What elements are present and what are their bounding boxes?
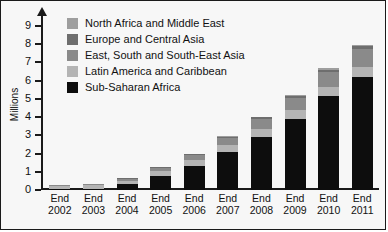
y-axis-tick-label: 9 (9, 20, 31, 30)
bar-segment[interactable] (251, 119, 272, 129)
bar-segment[interactable] (352, 67, 373, 77)
x-axis-label-line: 2006 (177, 205, 211, 217)
y-axis-tick-label: 7 (9, 56, 31, 66)
legend-swatch-icon (67, 66, 78, 77)
legend-swatch-icon (67, 34, 78, 45)
y-axis-tick (35, 153, 41, 155)
legend-item[interactable]: East, South and South-East Asia (67, 47, 245, 63)
stacked-bar[interactable] (49, 185, 70, 190)
bar-segment[interactable] (117, 184, 138, 190)
stacked-bar[interactable] (217, 136, 238, 190)
bar-segment[interactable] (285, 119, 306, 190)
x-axis-label-line: End (144, 193, 178, 205)
x-axis-tick-label: End2002 (43, 193, 77, 216)
x-axis-tick-label: End2006 (177, 193, 211, 216)
x-axis-label-line: 2005 (144, 205, 178, 217)
bar-segment[interactable] (150, 176, 171, 190)
bar-segment[interactable] (184, 166, 205, 190)
stacked-bar[interactable] (318, 68, 339, 190)
legend-label: Latin America and Caribbean (85, 66, 227, 77)
bar-segment[interactable] (285, 98, 306, 111)
x-axis-label-line: 2010 (312, 205, 346, 217)
bar-group[interactable] (251, 15, 272, 190)
legend-label: Europe and Central Asia (85, 34, 204, 45)
chart-legend: North Africa and Middle EastEurope and C… (67, 15, 245, 95)
x-axis-label-line: End (278, 193, 312, 205)
legend-swatch-icon (67, 18, 78, 29)
x-axis-label-line: End (312, 193, 346, 205)
x-axis-tick-label: End2010 (312, 193, 346, 216)
y-axis-tick-label: 8 (9, 38, 31, 48)
x-axis-label-line: End (345, 193, 379, 205)
legend-swatch-icon (67, 82, 78, 93)
legend-item[interactable]: North Africa and Middle East (67, 15, 245, 31)
legend-label: North Africa and Middle East (85, 18, 224, 29)
y-axis-tick (35, 61, 41, 63)
chart-figure: Millions 0123456789 End2002End2003End200… (0, 0, 386, 230)
bar-segment[interactable] (217, 152, 238, 190)
stacked-bar[interactable] (285, 95, 306, 190)
bar-segment[interactable] (352, 77, 373, 190)
y-axis-tick (35, 189, 41, 191)
y-axis-tick (35, 171, 41, 173)
stacked-bar[interactable] (184, 154, 205, 190)
x-axis-label-line: 2009 (278, 205, 312, 217)
bar-segment[interactable] (352, 49, 373, 67)
bar-segment[interactable] (49, 189, 70, 190)
x-axis-tick-label: End2007 (211, 193, 245, 216)
x-axis-label-line: 2003 (77, 205, 111, 217)
legend-item[interactable]: Sub-Saharan Africa (67, 79, 245, 95)
stacked-bar[interactable] (117, 178, 138, 190)
legend-item[interactable]: Europe and Central Asia (67, 31, 245, 47)
stacked-bar[interactable] (83, 184, 104, 190)
x-axis-label-line: End (245, 193, 279, 205)
bar-segment[interactable] (251, 137, 272, 190)
x-axis-tick-label: End2003 (77, 193, 111, 216)
bar-group[interactable] (285, 15, 306, 190)
x-axis-label-line: End (211, 193, 245, 205)
bar-segment[interactable] (83, 189, 104, 190)
x-axis-label-line: 2007 (211, 205, 245, 217)
bar-segment[interactable] (217, 138, 238, 145)
legend-label: East, South and South-East Asia (85, 50, 245, 61)
x-axis-tick-label: End2011 (345, 193, 379, 216)
legend-label: Sub-Saharan Africa (85, 82, 180, 93)
y-axis-tick (35, 98, 41, 100)
y-axis-tick-label: 2 (9, 148, 31, 158)
bar-segment[interactable] (251, 129, 272, 137)
x-axis-label-line: End (177, 193, 211, 205)
y-axis-tick-label: 3 (9, 129, 31, 139)
y-axis-tick-label: 6 (9, 75, 31, 85)
bar-segment[interactable] (318, 87, 339, 96)
y-axis-tick (35, 134, 41, 136)
y-axis-tick (35, 80, 41, 82)
x-axis-label-line: End (43, 193, 77, 205)
bar-segment[interactable] (217, 145, 238, 152)
x-axis-label-line: 2008 (245, 205, 279, 217)
y-axis-tick (35, 116, 41, 118)
x-axis-label-line: 2011 (345, 205, 379, 217)
legend-swatch-icon (67, 50, 78, 61)
y-axis-tick-label: 0 (9, 184, 31, 194)
stacked-bar[interactable] (251, 117, 272, 190)
bar-group[interactable] (352, 15, 373, 190)
bar-group[interactable] (318, 15, 339, 190)
x-axis-tick-label: End2008 (245, 193, 279, 216)
bar-segment[interactable] (318, 96, 339, 190)
x-axis-label-line: 2002 (43, 205, 77, 217)
legend-item[interactable]: Latin America and Caribbean (67, 63, 245, 79)
x-axis-tick-label: End2009 (278, 193, 312, 216)
x-axis-label-line: 2004 (110, 205, 144, 217)
bar-segment[interactable] (285, 110, 306, 119)
x-axis-tick-label: End2005 (144, 193, 178, 216)
bar-segment[interactable] (318, 72, 339, 87)
x-axis-label-line: End (77, 193, 111, 205)
stacked-bar[interactable] (352, 45, 373, 190)
y-axis-tick (35, 25, 41, 27)
y-axis-tick (35, 43, 41, 45)
y-axis-tick-label: 5 (9, 93, 31, 103)
y-axis-tick-label: 1 (9, 166, 31, 176)
y-axis-tick-label: 4 (9, 111, 31, 121)
stacked-bar[interactable] (150, 167, 171, 190)
x-axis-label-line: End (110, 193, 144, 205)
